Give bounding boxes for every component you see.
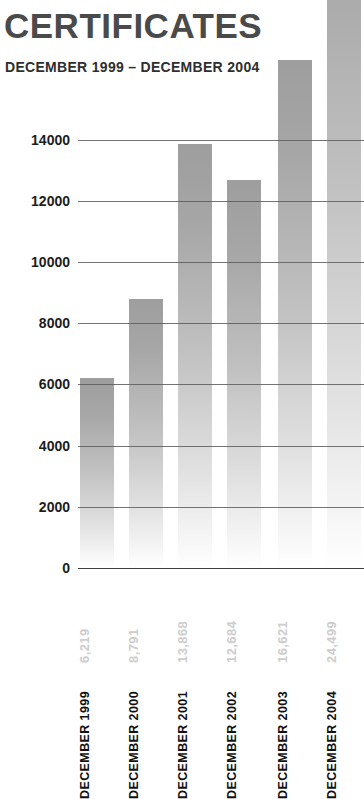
bar-december-2001 bbox=[178, 144, 212, 568]
value-label-december-2003: 16,621 bbox=[275, 621, 290, 663]
gridline-12000 bbox=[78, 201, 364, 202]
value-label-december-1999: 6,219 bbox=[77, 628, 92, 663]
ytick-label-4000: 4000 bbox=[4, 439, 70, 453]
gridline-6000 bbox=[78, 384, 364, 385]
value-label-december-2001: 13,868 bbox=[175, 621, 190, 663]
bar-december-2002 bbox=[227, 180, 261, 568]
gridline-4000 bbox=[78, 446, 364, 447]
gridline-2000 bbox=[78, 507, 364, 508]
xtick-label-december-2003: DECEMBER 2003 bbox=[276, 691, 290, 799]
value-label-december-2004: 24,499 bbox=[324, 621, 339, 663]
ytick-label-14000: 14000 bbox=[4, 133, 70, 147]
bar-december-2003 bbox=[278, 60, 312, 568]
xtick-label-december-1999: DECEMBER 1999 bbox=[78, 691, 92, 799]
page-title: CERTIFICATES bbox=[4, 6, 262, 46]
chart-subtitle: DECEMBER 1999 – DECEMBER 2004 bbox=[5, 58, 263, 76]
gridline-8000 bbox=[78, 323, 364, 324]
ytick-label-12000: 12000 bbox=[4, 194, 70, 208]
bar-december-1999 bbox=[80, 378, 114, 568]
xtick-label-december-2002: DECEMBER 2002 bbox=[225, 691, 239, 799]
ytick-label-2000: 2000 bbox=[4, 500, 70, 514]
axis-baseline-0 bbox=[78, 568, 364, 569]
ytick-label-6000: 6000 bbox=[4, 377, 70, 391]
gridline-14000 bbox=[78, 140, 364, 141]
gridline-10000 bbox=[78, 262, 364, 263]
ytick-label-8000: 8000 bbox=[4, 316, 70, 330]
bar-december-2000 bbox=[129, 299, 163, 568]
xtick-label-december-2000: DECEMBER 2000 bbox=[127, 691, 141, 799]
bar-december-2004 bbox=[327, 0, 361, 568]
ytick-label-0: 0 bbox=[4, 561, 70, 575]
ytick-label-10000: 10000 bbox=[4, 255, 70, 269]
xtick-label-december-2004: DECEMBER 2004 bbox=[325, 691, 339, 799]
xtick-label-december-2001: DECEMBER 2001 bbox=[176, 691, 190, 799]
value-label-december-2000: 8,791 bbox=[126, 628, 141, 663]
value-label-december-2002: 12,684 bbox=[224, 621, 239, 663]
